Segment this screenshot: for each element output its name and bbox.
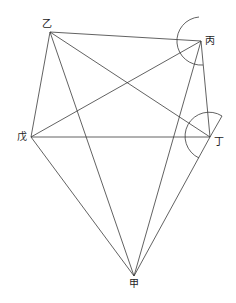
label-yi: 乙: [42, 19, 52, 29]
label-bing: 丙: [205, 36, 215, 46]
segment-yi-wu: [31, 32, 50, 137]
segment-bing-jia: [134, 41, 201, 276]
geometry-diagram: [0, 0, 236, 303]
segment-yi-ding: [50, 32, 210, 137]
label-ding: 丁: [214, 137, 224, 147]
segment-bing-wu: [31, 41, 201, 137]
label-wu: 戊: [17, 132, 27, 142]
angle-arc-ding-tick: [210, 116, 222, 137]
segment-yi-jia: [50, 32, 134, 276]
label-jia: 甲: [129, 279, 139, 289]
segment-bing-ding: [201, 41, 210, 137]
segment-wu-jia: [31, 137, 134, 276]
